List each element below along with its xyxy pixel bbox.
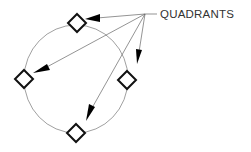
quadrants-label: QUADRANTS xyxy=(160,8,234,20)
quadrant-marker-right xyxy=(118,71,136,89)
leader-line-top xyxy=(97,14,145,18)
arrowhead-bottom xyxy=(86,104,95,121)
circle xyxy=(24,25,128,133)
quadrant-marker-top xyxy=(68,14,86,32)
arrowheads xyxy=(33,14,142,121)
quadrant-markers xyxy=(15,14,136,142)
quadrant-marker-left xyxy=(15,70,33,88)
arrowhead-left xyxy=(33,64,50,73)
leader-lines xyxy=(45,14,157,108)
quadrants-diagram: QUADRANTS xyxy=(0,0,251,152)
quadrant-marker-bottom xyxy=(67,124,85,142)
arrowhead-top xyxy=(85,14,100,22)
arrowhead-right xyxy=(136,49,142,64)
